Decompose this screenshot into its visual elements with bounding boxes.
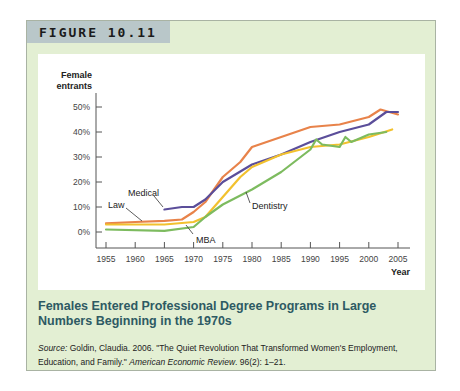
y-axis-label: entrants: [56, 81, 92, 91]
x-tick-label: 1985: [272, 254, 291, 264]
x-tick-label: 1955: [97, 254, 116, 264]
y-tick-label: 10%: [73, 202, 90, 212]
annotation-mba: MBA: [196, 235, 216, 245]
y-tick-label: 20%: [73, 177, 90, 187]
annotation-medical: Medical: [128, 188, 159, 198]
y-tick-label: 30%: [73, 152, 90, 162]
series-line-mba: [106, 130, 392, 225]
x-tick-label: 2000: [359, 254, 378, 264]
x-tick-label: 1970: [184, 254, 203, 264]
line-chart: Femaleentrants0%10%20%30%40%50%195519601…: [0, 0, 460, 391]
x-tick-label: 1990: [301, 254, 320, 264]
x-tick-label: 1995: [330, 254, 349, 264]
annotation-leader: [126, 208, 142, 221]
annotation-dentistry: Dentistry: [252, 201, 288, 211]
y-tick-label: 0%: [78, 227, 91, 237]
series-line-medical: [164, 112, 398, 210]
annotation-leader: [246, 192, 250, 203]
y-tick-label: 50%: [73, 102, 90, 112]
series-line-dentistry: [106, 132, 386, 231]
x-tick-label: 1980: [243, 254, 262, 264]
x-tick-label: 1965: [155, 254, 174, 264]
x-tick-label: 1975: [213, 254, 232, 264]
annotation-law: Law: [108, 200, 125, 210]
x-axis-label: Year: [391, 267, 411, 277]
y-tick-label: 40%: [73, 127, 90, 137]
y-axis-label: Female: [61, 70, 92, 80]
x-tick-label: 2005: [389, 254, 408, 264]
x-tick-label: 1960: [126, 254, 145, 264]
